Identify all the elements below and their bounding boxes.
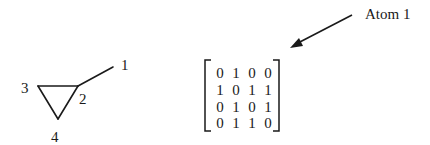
annotation-label: Atom 1 [365, 6, 410, 22]
annotation-arrow [290, 15, 352, 48]
matrix-cell: 0 [248, 99, 256, 115]
matrix-cell: 0 [232, 82, 240, 98]
diagram-canvas: 1 2 3 4 0 1 0 0 1 0 1 1 0 1 0 1 0 1 1 0 … [0, 0, 430, 145]
matrix-cell: 0 [216, 115, 224, 131]
atom-label-2: 2 [79, 91, 87, 107]
matrix-cell: 0 [216, 65, 224, 81]
matrix-cell: 1 [264, 99, 272, 115]
arrow-head-icon [290, 38, 303, 48]
matrix-cell: 1 [216, 82, 224, 98]
right-bracket [273, 60, 279, 131]
matrix-cell: 1 [232, 65, 240, 81]
bond-2-1 [78, 67, 113, 86]
matrix-cell: 1 [264, 82, 272, 98]
atom-label-1: 1 [121, 57, 129, 73]
matrix-cell: 1 [248, 115, 256, 131]
matrix-cell: 1 [248, 82, 256, 98]
atom-label-4: 4 [51, 129, 59, 145]
arrow-shaft [296, 15, 352, 44]
matrix-cell: 0 [264, 65, 272, 81]
bond-3-4 [38, 86, 58, 119]
left-bracket [205, 60, 211, 131]
matrix-cell: 1 [232, 115, 240, 131]
matrix-cell: 0 [264, 115, 272, 131]
atom-label-3: 3 [21, 80, 29, 96]
matrix-cell: 0 [216, 99, 224, 115]
matrix-cell: 1 [232, 99, 240, 115]
adjacency-matrix: 0 1 0 0 1 0 1 1 0 1 0 1 0 1 1 0 [216, 65, 272, 131]
bond-2-4 [58, 86, 78, 119]
molecule-graph [38, 67, 113, 119]
matrix-cell: 0 [248, 65, 256, 81]
